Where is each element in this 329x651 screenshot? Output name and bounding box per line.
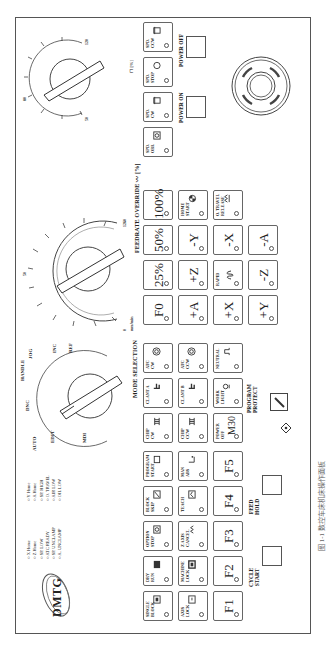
o-travel-release-button[interactable]: O. TRAVEL RELEASE xyxy=(213,190,243,220)
neutral-button[interactable]: NEUTRAL xyxy=(213,343,243,373)
option-stop-icon xyxy=(152,525,161,534)
led-indicator xyxy=(234,434,239,439)
emergency-stop-button[interactable] xyxy=(230,55,292,117)
power-on-label: POWER ON xyxy=(178,93,184,123)
mode-selector-dial[interactable]: AUTO EDIT MDI DNC HANDLE JOG INC REF xyxy=(22,341,132,451)
chip-conveyor-icon xyxy=(187,417,196,426)
led-indicator xyxy=(199,507,204,512)
mode-dnc[interactable]: DNC xyxy=(25,400,30,411)
neutral-icon xyxy=(222,347,231,356)
single-block-button[interactable]: SINGLE BLOCK xyxy=(143,591,173,621)
spindle-orient-button[interactable]: SPD. ORI. xyxy=(143,127,173,157)
spindle-stop-icon xyxy=(152,61,161,70)
jog-plus-y-button[interactable]: +Y xyxy=(248,295,278,325)
mode-jog[interactable]: JOG xyxy=(28,349,33,359)
cycle-start-button[interactable] xyxy=(262,546,282,566)
led-indicator xyxy=(164,577,169,582)
jog-minus-a-button[interactable]: -A xyxy=(248,225,278,255)
led-indicator xyxy=(164,364,169,369)
dry-run-button[interactable]: DRY RUN xyxy=(143,556,173,586)
feedrate-dial-icon xyxy=(22,213,137,331)
status-oil-low: ○ OIL LOW xyxy=(57,475,63,501)
f3-button[interactable]: F3 xyxy=(213,521,243,551)
home-start-button[interactable]: HOME START xyxy=(178,190,208,220)
led-indicator xyxy=(269,281,274,286)
mode-inc[interactable]: INC xyxy=(52,344,57,353)
led-indicator xyxy=(164,246,169,251)
option-stop-button[interactable]: OPTION STOP xyxy=(143,521,173,551)
led-indicator xyxy=(164,148,169,153)
spindle-cw-button[interactable]: SPD. CW xyxy=(143,92,173,122)
brand-logo: DMTG xyxy=(30,567,90,627)
rapid-50-button[interactable]: 50% xyxy=(143,225,173,255)
home-start-icon xyxy=(187,194,196,203)
cycle-start-label: CYCLE START xyxy=(248,568,260,587)
rapid-wave-icon xyxy=(224,269,234,281)
jog-minus-y-button[interactable]: -Y xyxy=(178,225,208,255)
z-axis-cancel-button[interactable]: Z AXIS CANCEL xyxy=(178,521,208,551)
f5-button[interactable]: F5 xyxy=(213,451,243,481)
led-indicator xyxy=(164,316,169,321)
program-start-button[interactable]: PROGRAM START xyxy=(143,451,173,481)
led-indicator xyxy=(164,612,169,617)
clant-b-button[interactable]: CLANT B xyxy=(178,378,208,408)
work-light-button[interactable]: WORK LIGHT xyxy=(213,378,243,408)
chip-cw-button[interactable]: CHIP CW xyxy=(143,413,173,443)
spindle-override-dial[interactable]: 50 80 120 xyxy=(22,36,112,121)
block-skip-button[interactable]: BLOCK SKIP xyxy=(143,486,173,516)
jog-minus-z-button[interactable]: -Z xyxy=(248,260,278,290)
f1-button[interactable]: F1 xyxy=(213,591,243,621)
jog-plus-a-button[interactable]: +A xyxy=(178,295,208,325)
program-protect-label: PROGRAM PROTECT xyxy=(246,384,258,413)
spindle-stop-button[interactable]: SPD. STOP xyxy=(143,57,173,87)
clant-a-button[interactable]: CLANT A xyxy=(143,378,173,408)
light-icon xyxy=(222,382,231,391)
rapid-button[interactable]: RAPID xyxy=(213,260,243,290)
teach-button[interactable]: TEACH xyxy=(178,486,208,516)
jog-plus-z-button[interactable]: +Z xyxy=(178,260,208,290)
led-indicator xyxy=(234,577,239,582)
mode-auto[interactable]: AUTO xyxy=(32,437,37,451)
man-abs-button[interactable]: MAN ABS xyxy=(178,451,208,481)
chip-ccw-button[interactable]: CHIP CCW xyxy=(178,413,208,443)
led-indicator xyxy=(234,281,239,286)
machine-lock-button[interactable]: MACHINE LOCK xyxy=(178,556,208,586)
spindle-dial-icon xyxy=(22,36,112,121)
feedrate-override-dial[interactable]: 0 1260 50 mm/min xyxy=(22,213,137,331)
rapid-100-button[interactable]: 100% xyxy=(143,190,173,220)
mode-edit[interactable]: EDIT xyxy=(50,431,55,443)
f4-button[interactable]: F4 xyxy=(213,486,243,516)
dry-run-icon xyxy=(152,560,161,569)
f2-button[interactable]: F2 xyxy=(213,556,243,586)
z-axis-cancel-icon xyxy=(187,525,196,534)
mode-mdi[interactable]: MDI xyxy=(82,433,87,443)
power-off-m30-button[interactable]: POWER OFF M30 xyxy=(213,413,243,443)
feed-hold-label: FEED HOLD xyxy=(248,499,260,515)
spindle-ccw-button[interactable]: SPD. CCW xyxy=(143,22,173,52)
emergency-stop-icon xyxy=(230,55,292,117)
mode-ref[interactable]: REF xyxy=(68,343,73,353)
block-skip-icon xyxy=(152,490,161,499)
teach-icon xyxy=(187,490,196,499)
feed-hold-button[interactable] xyxy=(262,475,282,495)
led-indicator xyxy=(164,542,169,547)
jog-minus-x-button[interactable]: -X xyxy=(213,225,243,255)
led-indicator xyxy=(164,472,169,477)
power-off-button[interactable] xyxy=(186,36,206,58)
jog-plus-x-button[interactable]: +X xyxy=(213,295,243,325)
spindle-orient-icon xyxy=(152,131,161,140)
status-column-1: ○ X Home ○ Z Home ○ SP. LOW ○ ATC READY … xyxy=(26,527,64,559)
led-indicator xyxy=(164,78,169,83)
mode-handle[interactable]: HANDLE xyxy=(20,360,25,381)
led-indicator xyxy=(164,211,169,216)
rapid-25-button[interactable]: 25% xyxy=(143,260,173,290)
led-indicator xyxy=(164,399,169,404)
atc-cw-button[interactable]: ATC CW xyxy=(143,343,173,373)
axis-lock-button[interactable]: AXIS LOCK xyxy=(178,591,208,621)
feedrate-tick-50: 50 xyxy=(22,272,27,276)
program-protect-key-switch[interactable] xyxy=(270,393,288,411)
power-on-button[interactable] xyxy=(186,96,206,118)
atc-ccw-button[interactable]: ATC CCW xyxy=(178,343,208,373)
program-start-icon xyxy=(152,455,161,464)
rapid-f0-button[interactable]: F0 xyxy=(143,295,173,325)
